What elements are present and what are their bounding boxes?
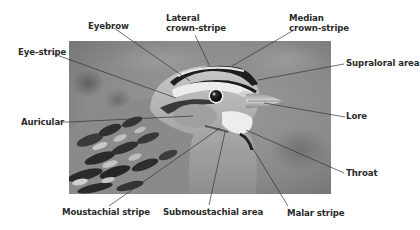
label-supraloral-area: Supraloral area xyxy=(346,58,420,68)
label-auricular: Auricular xyxy=(21,117,64,127)
label-submoustachial-area-text: Submoustachial area xyxy=(163,207,263,217)
bird-photo xyxy=(66,41,331,196)
label-eye-stripe: Eye-stripe xyxy=(18,47,66,57)
label-median-crown-stripe-line2: crown-stripe xyxy=(289,23,349,33)
label-lateral-crown-stripe-line1: Lateral xyxy=(166,13,226,23)
label-moustachial-stripe-text: Moustachial stripe xyxy=(62,207,150,217)
label-eyebrow: Eyebrow xyxy=(88,21,129,31)
label-eye-stripe-text: Eye-stripe xyxy=(18,47,66,57)
label-lore-text: Lore xyxy=(346,111,367,121)
label-auricular-text: Auricular xyxy=(21,117,64,127)
label-malar-stripe-text: Malar stripe xyxy=(287,208,345,218)
label-median-crown-stripe-line1: Median xyxy=(289,13,349,23)
label-lore: Lore xyxy=(346,111,367,121)
label-malar-stripe: Malar stripe xyxy=(287,208,345,218)
label-lateral-crown-stripe: Lateral crown-stripe xyxy=(166,13,226,33)
label-moustachial-stripe: Moustachial stripe xyxy=(62,207,150,217)
label-submoustachial-area: Submoustachial area xyxy=(163,207,263,217)
label-median-crown-stripe: Median crown-stripe xyxy=(289,13,349,33)
label-supraloral-area-text: Supraloral area xyxy=(346,58,420,68)
label-throat-text: Throat xyxy=(346,168,377,178)
label-eyebrow-text: Eyebrow xyxy=(88,21,129,31)
eye xyxy=(210,90,222,102)
label-throat: Throat xyxy=(346,168,377,178)
label-lateral-crown-stripe-line2: crown-stripe xyxy=(166,23,226,33)
